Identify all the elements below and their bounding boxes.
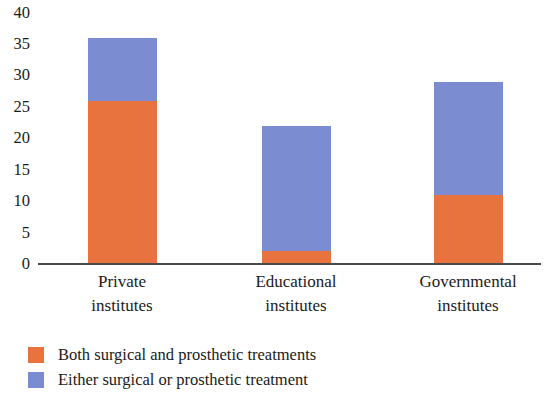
- stacked-bar-chart: 40 35 30 25 20 15 10 5 0: [0, 0, 548, 397]
- bar-segment-either[interactable]: [434, 82, 503, 195]
- y-tick-label: 35: [0, 36, 30, 53]
- x-tick-label-line: Educational: [216, 270, 376, 294]
- bar-segment-both[interactable]: [88, 101, 157, 264]
- legend-item-either[interactable]: Either surgical or prosthetic treatment: [28, 367, 316, 392]
- y-tick-label: 5: [0, 225, 30, 242]
- y-tick-label: 15: [0, 162, 30, 179]
- plot-area: [38, 13, 538, 264]
- y-tick-label: 25: [0, 99, 30, 116]
- bar-segment-both[interactable]: [434, 195, 503, 264]
- legend-swatch-either-icon: [28, 372, 44, 388]
- chart-legend: Both surgical and prosthetic treatments …: [28, 342, 316, 392]
- x-axis-line: [38, 263, 541, 265]
- y-tick-label: 40: [0, 5, 30, 22]
- legend-label-either: Either surgical or prosthetic treatment: [58, 371, 308, 389]
- x-tick-label-line: Private: [42, 270, 202, 294]
- x-tick-label-line: institutes: [42, 294, 202, 318]
- x-tick-label-private-institutes: Private institutes: [42, 270, 202, 318]
- x-tick-label-line: Governmental: [388, 270, 548, 294]
- y-tick-label: 0: [0, 256, 30, 273]
- bar-segment-either[interactable]: [262, 126, 331, 252]
- bar-segment-either[interactable]: [88, 38, 157, 101]
- x-tick-label-educational-institutes: Educational institutes: [216, 270, 376, 318]
- y-tick-label: 20: [0, 130, 30, 147]
- legend-item-both[interactable]: Both surgical and prosthetic treatments: [28, 342, 316, 367]
- x-tick-label-line: institutes: [388, 294, 548, 318]
- x-tick-label-governmental-institutes: Governmental institutes: [388, 270, 548, 318]
- y-tick-label: 10: [0, 193, 30, 210]
- y-tick-label: 30: [0, 67, 30, 84]
- legend-swatch-both-icon: [28, 347, 44, 363]
- legend-label-both: Both surgical and prosthetic treatments: [58, 346, 316, 364]
- bar-group-private-institutes[interactable]: [88, 38, 157, 264]
- gridline-40: [38, 13, 538, 15]
- bar-group-educational-institutes[interactable]: [262, 126, 331, 264]
- bar-group-governmental-institutes[interactable]: [434, 82, 503, 264]
- x-tick-label-line: institutes: [216, 294, 376, 318]
